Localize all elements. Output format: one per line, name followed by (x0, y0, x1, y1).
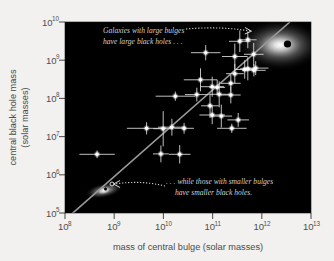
small-bulge-annotation-line1: . . . while those with smaller bulges (166, 177, 273, 186)
y-tick-exp-1e9: 9 (56, 53, 60, 60)
x-tick-exp-1e12: 12 (264, 220, 272, 227)
y-tick-exp-1e7: 7 (56, 130, 60, 137)
x-tick-base-1e8: 10 (58, 221, 69, 232)
y-tick-base-1e8: 10 (46, 93, 57, 104)
y-axis-title-line2: (solar masses) (20, 87, 30, 147)
y-tick-base-1e9: 10 (46, 55, 57, 66)
x-tick-exp-1e8: 8 (68, 220, 72, 227)
large-bulge-annotation-line1: Galaxies with large bulges (103, 26, 184, 35)
y-tick-exp-1e10: 10 (52, 15, 60, 22)
large-bulge-annotation-line2: have large black holes . . . (103, 37, 183, 46)
y-tick-base-1e10: 10 (42, 17, 53, 28)
y-tick-exp-1e8: 8 (56, 91, 60, 98)
x-tick-base-1e12: 10 (254, 221, 265, 232)
x-axis-title: mass of central bulge (solar masses) (113, 242, 263, 252)
small-bulge-annotation-line2: have smaller black holes. (175, 188, 252, 197)
x-tick-exp-1e9: 9 (117, 220, 121, 227)
x-tick-base-1e9: 10 (107, 221, 118, 232)
x-tick-exp-1e11: 11 (215, 220, 222, 227)
black-hole-bulge-mass-chart: 10 10 10 9 10 8 10 7 10 6 10 5 10 8 10 9… (0, 0, 334, 261)
large-black-hole-dot (284, 40, 291, 47)
y-tick-exp-1e5: 5 (56, 206, 60, 213)
x-tick-base-1e13: 10 (303, 221, 314, 232)
x-tick-base-1e11: 10 (205, 221, 216, 232)
small-black-hole-dot (104, 188, 107, 191)
x-tick-exp-1e10: 10 (165, 220, 173, 227)
y-tick-base-1e5: 10 (46, 208, 57, 219)
y-tick-base-1e6: 10 (46, 169, 57, 180)
x-tick-exp-1e13: 13 (313, 220, 321, 227)
x-tick-base-1e10: 10 (155, 221, 166, 232)
y-axis-title-line1: central black hole mass (8, 69, 18, 165)
y-tick-base-1e7: 10 (46, 131, 57, 142)
y-tick-exp-1e6: 6 (56, 168, 60, 175)
